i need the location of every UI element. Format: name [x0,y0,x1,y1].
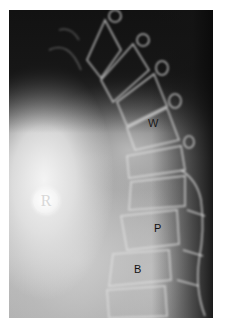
spine-vertebrae [9,10,213,318]
label-w: W [148,118,158,129]
xray-image: R W P B [9,10,213,318]
label-b: B [134,264,141,275]
label-p: P [154,223,161,234]
side-marker-r: R [33,188,59,214]
side-marker-text: R [41,193,52,209]
